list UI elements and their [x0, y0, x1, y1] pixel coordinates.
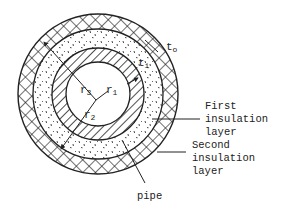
pipe-label: pipe	[137, 190, 162, 202]
first-insulation-label-line1: First	[205, 100, 237, 112]
second-insulation-label-line2: insulation	[192, 152, 255, 164]
second-insulation-label-line3: layer	[192, 165, 224, 177]
first-insulation-label-line3: layer	[205, 126, 237, 138]
pipe-wall	[52, 48, 144, 140]
first-insulation-label-line2: insulation	[205, 113, 268, 125]
pipe-insulation-diagram: r3 r1 r2 ti to First insulation layer Se…	[0, 0, 284, 209]
to-label: to	[166, 41, 178, 54]
second-insulation-label-line1: Second	[192, 139, 230, 151]
